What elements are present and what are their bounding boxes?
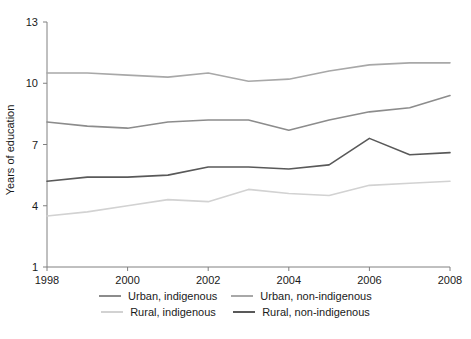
x-tick-label: 2006: [357, 274, 381, 286]
chart-series-group: [47, 63, 450, 216]
y-tick-label: 7: [32, 139, 38, 151]
legend-entry-urban-non-indigenous[interactable]: Urban, non-indigenous: [231, 290, 371, 302]
x-tick-label: 2002: [196, 274, 220, 286]
legend-label: Urban, indigenous: [128, 290, 217, 302]
legend-swatch-icon: [99, 295, 121, 297]
x-tick-label: 2000: [115, 274, 139, 286]
legend-row: Rural, indigenousRural, non-indigenous: [101, 306, 370, 318]
legend-entry-rural-indigenous[interactable]: Rural, indigenous: [101, 306, 219, 318]
line-chart: Years of education 1471013 1998200020022…: [0, 0, 471, 339]
legend-label: Rural, indigenous: [130, 306, 216, 318]
legend-swatch-icon: [231, 295, 253, 297]
legend-label: Rural, non-indigenous: [262, 306, 370, 318]
y-tick-label: 13: [26, 16, 38, 28]
y-axis-ticks: 1471013: [26, 16, 47, 273]
x-tick-label: 1998: [35, 274, 59, 286]
series-line-rural-non-indigenous: [47, 138, 450, 181]
legend-row: Urban, indigenousUrban, non-indigenous: [99, 290, 371, 302]
chart-legend: Urban, indigenousUrban, non-indigenousRu…: [0, 290, 471, 318]
legend-entry-rural-non-indigenous[interactable]: Rural, non-indigenous: [233, 306, 370, 318]
legend-entry-urban-indigenous[interactable]: Urban, indigenous: [99, 290, 217, 302]
x-axis-ticks: 199820002002200420062008: [35, 267, 462, 286]
x-tick-label: 2004: [277, 274, 301, 286]
y-tick-label: 1: [32, 261, 38, 273]
chart-plot-area: Years of education 1471013 1998200020022…: [0, 0, 471, 290]
legend-label: Urban, non-indigenous: [260, 290, 371, 302]
series-line-urban-indigenous: [47, 96, 450, 131]
y-tick-label: 10: [26, 77, 38, 89]
series-line-urban-non-indigenous: [47, 63, 450, 81]
x-tick-label: 2008: [438, 274, 462, 286]
legend-swatch-icon: [101, 311, 123, 313]
y-axis-title: Years of education: [4, 105, 16, 196]
y-tick-label: 4: [32, 200, 38, 212]
series-line-rural-indigenous: [47, 181, 450, 216]
legend-swatch-icon: [233, 311, 255, 313]
